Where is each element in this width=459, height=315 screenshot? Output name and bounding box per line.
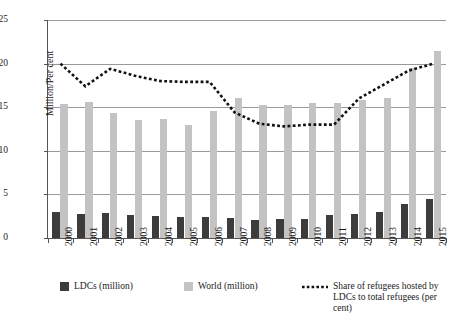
x-tick-label-2012: 2012 (363, 227, 373, 246)
bar-ldcs-2003 (127, 215, 134, 238)
x-tick-label-2000: 2000 (64, 227, 74, 246)
bar-ldcs-2012 (351, 214, 358, 238)
bar-ldcs-2000 (52, 212, 59, 238)
bar-world-2011 (334, 103, 341, 238)
bar-world-2009 (284, 105, 291, 238)
legend-swatch-world-icon (184, 282, 193, 291)
bar-world-2007 (235, 98, 242, 238)
bar-ldcs-2005 (177, 217, 184, 238)
bar-world-2003 (135, 120, 142, 238)
bar-world-2006 (210, 111, 217, 238)
y-tick-label: 0 (0, 233, 8, 243)
y-tick-label: 25 (0, 15, 8, 25)
x-tick-label-2002: 2002 (114, 227, 124, 246)
gridline (48, 64, 446, 65)
x-tick-label-2009: 2009 (288, 227, 298, 246)
x-tick-label-2003: 2003 (139, 227, 149, 246)
x-tick-mark (48, 238, 49, 243)
bar-ldcs-2015 (426, 199, 433, 238)
refugees-chart: 2000200120022003200420052006200720082009… (0, 0, 459, 315)
bar-world-2004 (160, 119, 167, 238)
bar-ldcs-2007 (227, 218, 234, 238)
y-tick-mark (44, 151, 48, 152)
y-tick-mark (44, 194, 48, 195)
bar-ldcs-2011 (326, 215, 333, 238)
x-tick-label-2004: 2004 (164, 227, 174, 246)
legend-swatch-ldcs-icon (60, 282, 69, 291)
x-tick-label-2011: 2011 (338, 227, 348, 246)
legend-item-share: Share of refugees hosted by LDCs to tota… (302, 281, 450, 314)
bar-world-2015 (434, 51, 441, 238)
legend-item-world: World (million) (184, 281, 258, 292)
bar-ldcs-2001 (77, 214, 84, 238)
bar-world-2014 (409, 68, 416, 238)
legend-label-world: World (million) (198, 281, 258, 292)
bar-world-2013 (384, 98, 391, 238)
gridline (48, 20, 446, 21)
y-tick-label: 20 (0, 59, 8, 69)
bar-ldcs-2009 (276, 219, 283, 238)
plot-area: 2000200120022003200420052006200720082009… (47, 20, 445, 238)
legend-dotted-line-icon (302, 282, 328, 291)
x-tick-label-2006: 2006 (214, 227, 224, 246)
x-tick-label-2010: 2010 (313, 227, 323, 246)
x-tick-label-2013: 2013 (388, 227, 398, 246)
bar-world-2002 (110, 113, 117, 238)
x-tick-label-2007: 2007 (239, 227, 249, 246)
y-tick-label: 10 (0, 146, 8, 156)
y-tick-label: 15 (0, 102, 8, 112)
bar-world-2005 (185, 125, 192, 238)
bar-world-2000 (60, 104, 67, 238)
y-axis-title: Million/Per cent (44, 0, 55, 116)
x-tick-label-2001: 2001 (89, 227, 99, 246)
bar-ldcs-2002 (102, 213, 109, 238)
x-tick-label-2015: 2015 (438, 227, 448, 246)
legend-label-share: Share of refugees hosted by LDCs to tota… (333, 281, 450, 314)
bar-ldcs-2006 (202, 217, 209, 238)
bar-ldcs-2004 (152, 216, 159, 238)
bar-ldcs-2014 (401, 204, 408, 238)
y-tick-label: 5 (0, 189, 8, 199)
bar-world-2010 (309, 103, 316, 238)
bar-world-2012 (359, 100, 366, 238)
bar-ldcs-2008 (251, 220, 258, 238)
x-tick-label-2014: 2014 (413, 227, 423, 246)
x-tick-label-2005: 2005 (189, 227, 199, 246)
bar-ldcs-2010 (301, 219, 308, 238)
legend-item-ldcs: LDCs (million) (60, 281, 133, 292)
bar-world-2008 (259, 105, 266, 238)
chart-legend: LDCs (million) World (million) Share of … (60, 279, 450, 311)
bar-ldcs-2013 (376, 212, 383, 238)
x-tick-label-2008: 2008 (263, 227, 273, 246)
bar-world-2001 (85, 102, 92, 238)
legend-label-ldcs: LDCs (million) (74, 281, 133, 292)
